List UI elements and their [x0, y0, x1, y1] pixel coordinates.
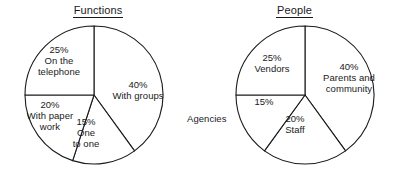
slice-name-parents-line2: community [308, 83, 390, 94]
slice-label-with-groups: 40% With groups [96, 79, 180, 101]
slice-pct-agencies: 15% [244, 96, 284, 107]
slice-name-with-paper-work-line2: work [14, 121, 86, 132]
slice-pct-on-the-telephone: 25% [24, 44, 94, 55]
slice-label-agencies-name: Agencies [187, 113, 247, 124]
slice-pct-with-paper-work: 20% [14, 99, 86, 110]
slice-label-vendors: 25% Vendors [239, 52, 305, 74]
slice-label-agencies-pct: 15% [244, 96, 284, 107]
slice-name-on-the-telephone-line1: On the [24, 55, 94, 66]
slice-pct-with-groups: 40% [96, 79, 180, 90]
pie-chart-people: People 40% Parents and community 20% Sta… [196, 0, 393, 181]
slice-pct-parents: 40% [308, 61, 390, 72]
slice-name-with-groups: With groups [96, 90, 180, 101]
slice-label-parents-and-community: 40% Parents and community [308, 61, 390, 95]
slice-label-on-the-telephone: 25% On the telephone [24, 44, 94, 78]
slice-name-agencies: Agencies [187, 113, 247, 124]
slice-label-with-paper-work: 20% With paper work [14, 99, 86, 133]
slice-name-parents-line1: Parents and [308, 72, 390, 83]
slice-label-staff: 20% Staff [268, 113, 322, 135]
slice-name-vendors: Vendors [239, 63, 305, 74]
slice-pct-staff: 20% [268, 113, 322, 124]
slice-name-with-paper-work-line1: With paper [14, 110, 86, 121]
slice-name-on-the-telephone-line2: telephone [24, 66, 94, 77]
slice-pct-vendors: 25% [239, 52, 305, 63]
slice-name-one-to-one-line2: to one [63, 138, 109, 149]
pie-chart-functions: Functions 40% With groups 15% One to one… [0, 0, 196, 181]
slice-name-staff: Staff [268, 124, 322, 135]
two-pie-charts-figure: Functions 40% With groups 15% One to one… [0, 0, 393, 181]
